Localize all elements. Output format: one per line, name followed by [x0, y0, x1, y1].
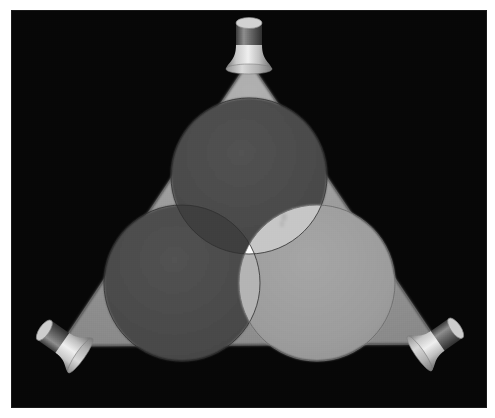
photograph-frame: [12, 11, 486, 407]
lamp-top-barrel: [236, 18, 262, 48]
scene-stage: [0, 0, 495, 418]
light-mixing-illustration: [12, 11, 486, 407]
